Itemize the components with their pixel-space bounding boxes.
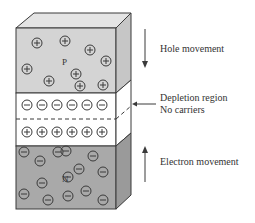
electron-movement-arrowhead	[142, 146, 148, 153]
pn-junction-diagram: P N Hole movement Depletion region No ca…	[0, 0, 255, 223]
hole-movement-label: Hole movement	[160, 43, 224, 54]
p-region-top-face	[16, 13, 131, 28]
n-region-label: N	[62, 174, 69, 184]
no-carriers-label: No carriers	[160, 104, 205, 115]
n-region-side-face	[116, 133, 131, 209]
depletion-region-arrowhead	[132, 102, 137, 107]
hole-movement-arrowhead	[142, 61, 148, 68]
p-region-label: P	[62, 57, 67, 67]
electron-movement-label: Electron movement	[160, 156, 239, 167]
depletion-region-label: Depletion region	[160, 92, 227, 103]
